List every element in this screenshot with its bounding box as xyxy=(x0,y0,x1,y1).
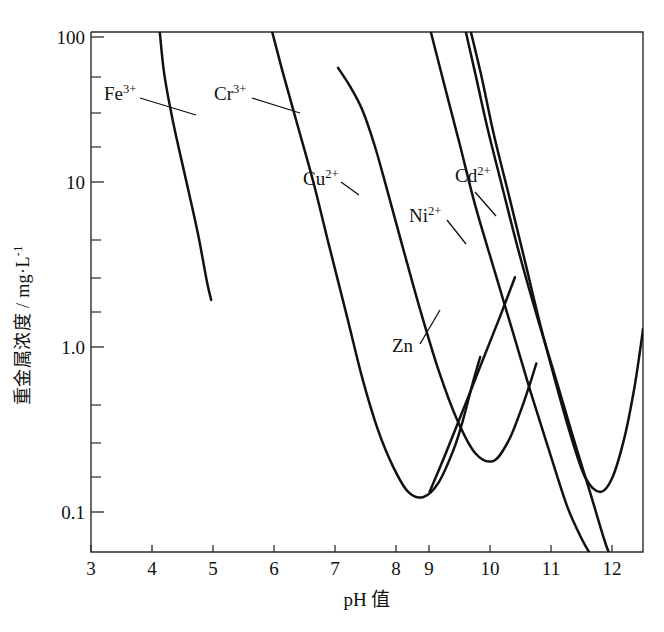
y-tick-label: 10 xyxy=(66,172,85,193)
curve-label-charge: 2+ xyxy=(325,167,338,181)
curve-Fe3+ xyxy=(159,27,211,300)
leader-Cu2+ xyxy=(341,182,359,195)
chart-figure: 3 4 5 6 7 8 9 10 11 12 100 10 1.0 0.1 pH… xyxy=(0,0,664,632)
curve-label-charge: 2+ xyxy=(477,164,490,178)
y-axis-major-ticks xyxy=(91,37,104,512)
x-tick-label: 7 xyxy=(330,558,340,579)
curve-label-charge: 3+ xyxy=(123,82,136,96)
x-tick-labels: 3 4 5 6 7 8 9 10 11 12 xyxy=(86,558,621,579)
y-tick-label: 0.1 xyxy=(61,502,85,523)
x-tick-label: 5 xyxy=(208,558,218,579)
y-tick-labels: 100 10 1.0 0.1 xyxy=(57,27,86,523)
curve-label-Cd2+: Cd2+ xyxy=(455,164,491,186)
y-tick-label: 100 xyxy=(57,27,86,48)
curve-label-Zn: Zn xyxy=(392,335,414,356)
x-tick-label: 11 xyxy=(542,558,560,579)
x-tick-label: 6 xyxy=(269,558,279,579)
curve-Zn xyxy=(469,25,643,492)
y-axis-minor-ticks xyxy=(91,77,101,477)
leader-Ni2+ xyxy=(447,220,466,244)
x-axis-title: pH 值 xyxy=(344,589,391,610)
curve-Cu2+ xyxy=(338,68,536,462)
curve-label-Fe3+: Fe3+ xyxy=(104,82,136,104)
curve-label-charge: 3+ xyxy=(233,82,246,96)
x-tick-label: 4 xyxy=(147,558,157,579)
curve-label-Cr3+: Cr3+ xyxy=(214,82,246,104)
y-tick-label: 1.0 xyxy=(61,337,85,358)
x-tick-label: 12 xyxy=(603,558,622,579)
chart-svg: 3 4 5 6 7 8 9 10 11 12 100 10 1.0 0.1 pH… xyxy=(0,0,664,632)
x-tick-label: 10 xyxy=(481,558,500,579)
x-tick-label: 8 xyxy=(391,558,401,579)
curve-label-Ni2+: Ni2+ xyxy=(409,204,441,226)
x-axis-ticks xyxy=(91,545,612,552)
curve-label-Cu2+: Cu2+ xyxy=(303,167,339,189)
plot-frame xyxy=(91,32,643,552)
x-tick-label: 9 xyxy=(424,558,434,579)
label-leader-lines xyxy=(140,98,496,344)
curve-label-charge: 2+ xyxy=(428,204,441,218)
data-curves xyxy=(159,25,643,566)
x-tick-label: 3 xyxy=(86,558,96,579)
